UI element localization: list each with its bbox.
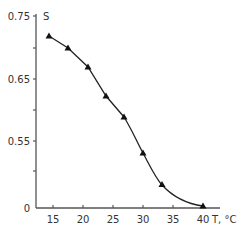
triangle-marker [103,93,110,99]
y-tick-label: 0.65 [8,74,30,85]
y-tick-label: 0.55 [8,136,30,147]
x-tick-label: 15 [47,214,60,225]
y-tick-label: 0 [24,203,30,214]
x-tick-label: 40 [197,214,210,225]
triangle-marker [46,33,53,39]
chart: 0.75 0.65 0.55 0 15 20 25 30 35 40 S T, … [0,0,248,232]
x-axis-title: T, °C [211,214,236,225]
y-axis-title: S [43,11,49,22]
y-tick-label: 0.75 [8,11,30,22]
triangle-marker [140,150,147,156]
x-tick-label: 30 [137,214,150,225]
triangle-marker [65,45,72,51]
x-tick-label: 20 [77,214,90,225]
x-tick-label: 25 [107,214,120,225]
data-line [49,36,203,206]
x-tick-label: 35 [167,214,180,225]
